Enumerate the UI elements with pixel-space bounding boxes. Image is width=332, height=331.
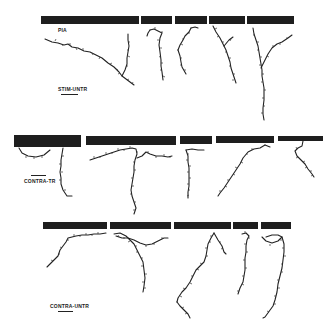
dendrite-trace [253, 28, 292, 120]
row-stim-untr [41, 16, 294, 120]
condition-label-contra-untr: CONTRA-UNTR [50, 303, 89, 309]
condition-label-stim-untr: STIM-UNTR [58, 86, 87, 92]
dendrite-trace [218, 145, 270, 196]
dendrite-trace [90, 146, 172, 214]
condition-label-contra-tr: CONTRA-TR [24, 178, 56, 184]
dendrite-trace [262, 235, 286, 318]
pia-bar [14, 135, 81, 147]
pia-bar [233, 222, 258, 229]
dendrite-tracing-figure [0, 0, 332, 331]
pia-bar [278, 136, 323, 141]
pia-bar [216, 136, 274, 143]
pia-bar [110, 222, 171, 229]
pia-bar [261, 222, 291, 229]
scale-bar [58, 311, 73, 312]
dendrite-trace [295, 141, 314, 177]
dendrite-trace [114, 233, 168, 292]
dendrite-trace [47, 232, 106, 267]
pia-bar [41, 16, 139, 24]
pia-bar [180, 136, 212, 144]
dendrite-trace [186, 149, 204, 198]
pia-bar [209, 16, 245, 24]
dendrite-trace [176, 233, 226, 318]
scale-bar [61, 94, 78, 95]
pia-bar [175, 16, 207, 24]
scale-bar [31, 175, 46, 176]
dendrite-trace [213, 26, 236, 83]
dendrite-trace [19, 148, 72, 196]
pia-bar [86, 136, 176, 145]
dendrite-trace [45, 34, 134, 85]
dendrite-trace [177, 27, 198, 74]
pia-bar [174, 222, 231, 229]
row-contra-tr [14, 135, 323, 214]
pia-bar [141, 16, 172, 24]
pia-label: PIA [58, 27, 67, 33]
dendrite-trace [147, 27, 165, 80]
pia-bar [247, 16, 294, 24]
pia-bar [43, 222, 107, 229]
dendrite-trace [237, 231, 250, 294]
